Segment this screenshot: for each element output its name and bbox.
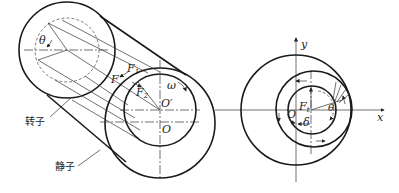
ft-label: Ft [298,100,310,114]
f-label: F [110,73,119,86]
left-figure: θ F1 F F2 ω O′ O 转子 静子 [19,2,215,180]
y-axis-label: y [300,38,308,51]
rotor-stator-diagram: θ F1 F F2 ω O′ O 转子 静子 [0,0,399,193]
theta-label: θ [328,102,334,113]
theta-ray-1 [48,23,67,50]
right-flow-arrow [343,96,345,104]
stator-leader [78,150,100,166]
o-label: O [162,123,171,136]
delta-label: δ [303,116,310,129]
omega-label: ω [167,79,176,92]
pressure-line-4 [339,94,349,103]
theta-arc [47,40,52,47]
o-prime-label: O′ [161,97,173,110]
rotor-label: 转子 [25,115,45,127]
theta-ray-2 [38,50,67,60]
theta-label: θ [39,34,46,47]
f2-label: F2 [135,86,149,100]
x-axis-label: x [377,111,384,124]
pressure-line-2 [335,85,341,101]
rotor-line-3 [38,60,135,118]
rotor-line-2 [62,20,160,72]
o-label: O [287,108,296,121]
right-figure: y x Ft O δ θ [215,38,384,182]
pressure-line-1 [333,82,336,100]
stator-label: 静子 [55,160,75,172]
f1-label: F1 [126,62,139,76]
